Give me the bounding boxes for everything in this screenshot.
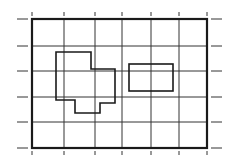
irregular-polygon-shape bbox=[56, 52, 115, 113]
tick-marks bbox=[17, 12, 222, 155]
grid-lines bbox=[32, 19, 207, 148]
outer-border bbox=[32, 19, 207, 148]
grid-diagram bbox=[0, 0, 237, 167]
